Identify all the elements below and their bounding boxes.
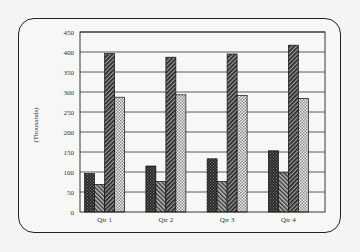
x-tick-label: Qtr 3 (220, 216, 235, 224)
y-tick-label: 300 (64, 89, 75, 97)
bar-qtr1-series1 (85, 174, 95, 212)
bar-qtr2-series1 (146, 166, 156, 212)
bar-qtr4-series2 (278, 173, 288, 212)
bar-qtr3-series2 (217, 182, 227, 212)
y-tick-label: 450 (64, 29, 75, 37)
y-tick-label: 250 (64, 109, 75, 117)
y-tick-label: 0 (71, 209, 75, 217)
bar-qtr2-series4 (176, 95, 186, 212)
y-tick-label: 200 (64, 129, 75, 137)
bar-qtr2-series2 (156, 182, 166, 212)
x-tick-label: Qtr 4 (281, 216, 296, 224)
y-axis-label: (Thousands) (32, 107, 40, 143)
bar-qtr2-series3 (166, 57, 176, 212)
y-tick-label: 50 (67, 189, 75, 197)
bar-qtr4-series3 (288, 45, 298, 212)
bar-qtr3-series4 (237, 96, 247, 212)
y-tick-label: 350 (64, 69, 75, 77)
bar-qtr1-series2 (95, 184, 105, 212)
bar-qtr4-series4 (298, 98, 308, 212)
y-tick-label: 100 (64, 169, 75, 177)
bars (85, 45, 309, 212)
bar-qtr3-series1 (207, 159, 217, 212)
y-tick-label: 150 (64, 149, 75, 157)
bar-qtr1-series3 (105, 54, 115, 212)
y-tick-label: 400 (64, 49, 75, 57)
bar-qtr3-series3 (227, 54, 237, 212)
bar-qtr4-series1 (268, 151, 278, 212)
x-tick-label: Qtr 1 (97, 216, 112, 224)
bar-chart: 050100150200250300350400450Qtr 1Qtr 2Qtr… (0, 0, 360, 252)
bar-qtr1-series4 (115, 97, 125, 212)
x-tick-label: Qtr 2 (159, 216, 174, 224)
